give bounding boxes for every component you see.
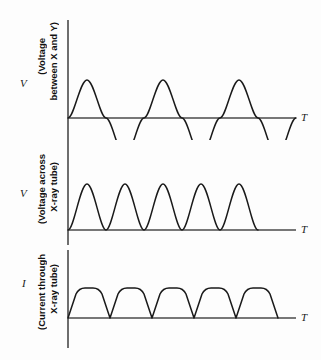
x-axis-symbol-supply: T — [301, 111, 307, 123]
supply-voltage-waveform-svg — [0, 0, 321, 140]
rectified-wave-path — [68, 184, 258, 230]
trapezoid-pulse-path — [68, 288, 278, 318]
sine-wave-path — [68, 80, 296, 140]
figure-canvas: V (Voltage between X and Y) T V (Voltage… — [0, 0, 321, 360]
tube-voltage-waveform-svg — [0, 140, 321, 250]
x-axis-symbol-current: T — [301, 311, 307, 323]
tube-current-waveform-svg — [0, 250, 321, 360]
plot-supply-voltage: V (Voltage between X and Y) T — [0, 0, 321, 140]
plot-tube-voltage: V (Voltage across X-ray tube) T — [0, 140, 321, 250]
x-axis-symbol-tube-voltage: T — [301, 223, 307, 235]
plot-tube-current: I (Current through X-ray tube) T — [0, 250, 321, 360]
